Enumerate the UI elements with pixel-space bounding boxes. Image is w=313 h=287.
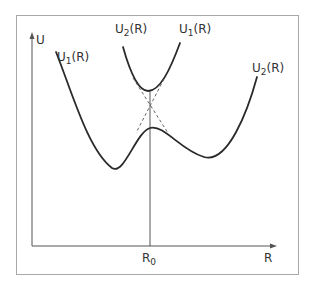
- upper-adiabatic-curve: [123, 43, 180, 91]
- label-u2-upper: U2(R): [115, 22, 147, 38]
- label-u1-upper-base: U: [179, 22, 188, 36]
- label-u2-right-base: U: [252, 61, 261, 75]
- y-axis-arrow-icon: [30, 32, 35, 39]
- x-axis-label: R: [264, 251, 272, 265]
- label-u2-upper-suffix: (R): [130, 22, 148, 36]
- x-axis-arrow-icon: [270, 244, 277, 249]
- label-u2-upper-base: U: [115, 22, 124, 36]
- label-u1-left-suffix: (R): [72, 50, 90, 64]
- label-u1-left: U1(R): [57, 50, 89, 66]
- label-u2-right: U2(R): [252, 61, 284, 77]
- lower-adiabatic-curve: [56, 52, 257, 169]
- label-u1-left-base: U: [57, 50, 66, 64]
- label-u1-upper-suffix: (R): [194, 22, 212, 36]
- y-axis-label: U: [36, 33, 45, 47]
- r0-label-sub: 0: [150, 257, 156, 267]
- r0-label: R0: [142, 251, 156, 267]
- r0-label-base: R: [142, 251, 150, 265]
- label-u2-right-suffix: (R): [267, 61, 285, 75]
- label-u1-upper: U1(R): [179, 22, 211, 38]
- diagram-canvas: U R R0 U1(R) U2(R) U1(R) U2(R): [0, 0, 313, 287]
